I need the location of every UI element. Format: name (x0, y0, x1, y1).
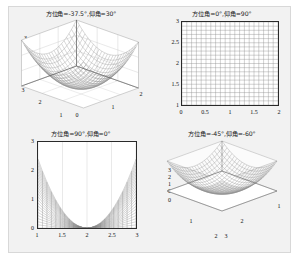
axes-box-top-right (181, 21, 279, 106)
tick-y-1-bottom-left: 1 (23, 196, 34, 202)
subplot-title-top-right: 方位角=0°,仰角=90° (155, 9, 289, 18)
tick-y-3-bottom-left: 3 (23, 138, 34, 144)
surface-mesh-top-right (182, 22, 278, 105)
subplot-top-left: 方位角=-37.5°,仰角=30° 3 2 1 0 3 2 1 0 1 2 (13, 9, 149, 127)
tick-x-15-bottom-left: 1.5 (55, 232, 69, 238)
subplot-bottom-right: 方位角=-45°,仰角=-60° 3 2 1 0 0 1 2 1 2 3 (155, 129, 289, 251)
tick-y-2-top-right: 2 (163, 60, 179, 66)
tick-y-3-top-right: 3 (163, 18, 179, 24)
surface-mesh-bottom-left (38, 142, 136, 228)
tick-y-1-top-right: 1 (163, 102, 179, 108)
tick-x-1-top-right: 1 (223, 109, 237, 115)
tick-x-3-bottom-left: 3 (130, 232, 144, 238)
axes-box-bottom-left (37, 141, 137, 229)
tick-x-2-bottom-left: 2 (80, 232, 94, 238)
tick-x-0-top-right: 0 (174, 109, 188, 115)
tick-y-0-bottom-left: 0 (23, 225, 34, 231)
tick-y-25-top-right: 2.5 (163, 39, 179, 45)
surface-mesh-bottom-right (155, 129, 289, 251)
subplot-top-right: 方位角=0°,仰角=90° 3 2.5 2 1.5 1 0 0.5 1 1.5 … (155, 9, 289, 127)
subplot-bottom-left: 方位角=90°,仰角=0° 3 2 1 0 1 1.5 2 2.5 3 (13, 129, 149, 251)
surface-mesh-top-left (13, 9, 149, 127)
tick-x-25-bottom-left: 2.5 (105, 232, 119, 238)
tick-y-2-bottom-left: 2 (23, 167, 34, 173)
tick-x-1-bottom-left: 1 (30, 232, 44, 238)
subplot-title-bottom-left: 方位角=90°,仰角=0° (13, 129, 149, 138)
tick-x-05-top-right: 0.5 (198, 109, 212, 115)
tick-y-15-top-right: 1.5 (163, 81, 179, 87)
tick-x-2-top-right: 2 (272, 109, 286, 115)
tick-x-15-top-right: 1.5 (247, 109, 261, 115)
figure-canvas: 方位角=-37.5°,仰角=30° 3 2 1 0 3 2 1 0 1 2 方位… (8, 6, 291, 253)
